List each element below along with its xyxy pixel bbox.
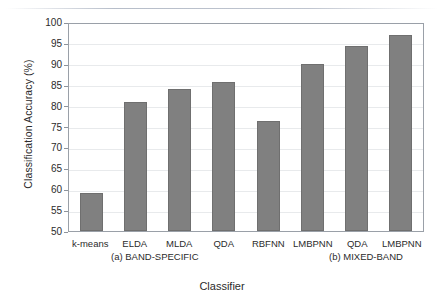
x-axis-tick-labels: k-meansELDAMLDAQDARBFNNLMBPNNQDALMBPNN	[68, 238, 424, 249]
plot-area	[68, 23, 424, 232]
group-label-mixed-band: (b) MIXED-BAND	[329, 251, 403, 262]
bar[interactable]	[301, 64, 324, 231]
x-tick-label: ELDA	[113, 238, 158, 249]
group-label-band-specific: (a) BAND-SPECIFIC	[111, 251, 199, 262]
y-tick-label: 75	[36, 123, 62, 133]
y-axis-title: Classification Accuracy (%)	[22, 24, 34, 224]
bar[interactable]	[168, 89, 191, 231]
bar[interactable]	[257, 121, 280, 231]
y-tick-label: 100	[36, 18, 62, 28]
x-axis-title: Classifier	[0, 280, 444, 292]
bar[interactable]	[389, 35, 412, 231]
bar-slot	[69, 24, 113, 231]
y-tick-label: 65	[36, 164, 62, 174]
x-tick-label: MLDA	[157, 238, 202, 249]
x-tick-label: k-means	[68, 238, 113, 249]
x-tick-label: LMBPNN	[291, 238, 336, 249]
bar[interactable]	[80, 193, 103, 231]
y-tick-mark	[64, 232, 68, 233]
y-tick-label: 60	[36, 185, 62, 195]
bar[interactable]	[124, 102, 147, 231]
y-tick-label: 70	[36, 143, 62, 153]
bar-slot	[290, 24, 334, 231]
y-tick-label: 90	[36, 60, 62, 70]
x-tick-label: RBFNN	[246, 238, 291, 249]
bar-slot	[335, 24, 379, 231]
bar-slot	[246, 24, 290, 231]
bar-slot	[158, 24, 202, 231]
x-tick-label: LMBPNN	[380, 238, 425, 249]
bar[interactable]	[212, 82, 235, 231]
y-tick-label: 55	[36, 206, 62, 216]
bar-slot	[202, 24, 246, 231]
y-tick-label: 85	[36, 81, 62, 91]
bar-slot	[379, 24, 423, 231]
bar[interactable]	[345, 46, 368, 231]
y-tick-label: 50	[36, 227, 62, 237]
y-tick-label: 95	[36, 39, 62, 49]
y-tick-label: 80	[36, 102, 62, 112]
x-tick-label: QDA	[335, 238, 380, 249]
bar-series	[69, 24, 423, 231]
scan-artifact-line	[6, 8, 438, 9]
bar-slot	[113, 24, 157, 231]
bar-chart-figure: Classification Accuracy (%) 100 95 90 85…	[0, 0, 444, 305]
x-tick-label: QDA	[202, 238, 247, 249]
